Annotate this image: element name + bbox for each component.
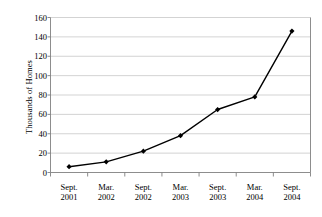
x-axis-tick-label: Sept.2001 <box>60 182 77 203</box>
x-axis-tick-label-year: 2004 <box>246 192 263 203</box>
x-axis-tick-label-year: 2002 <box>135 192 152 203</box>
x-axis-tick-label-year: 2002 <box>98 192 115 203</box>
x-axis-tick-label: Sept.2003 <box>209 182 226 203</box>
x-axis-tick-label: Sept.2004 <box>283 182 300 203</box>
line-chart: Thousands of Homes 020406080100120140160… <box>0 0 322 217</box>
x-axis-tick-label: Mar.2002 <box>98 182 115 203</box>
x-axis-tick-label-month: Mar. <box>98 182 115 193</box>
x-axis-tick-label-month: Mar. <box>172 182 189 193</box>
x-axis-tick-label-month: Sept. <box>60 182 77 193</box>
x-axis-tick-label: Mar.2004 <box>246 182 263 203</box>
x-axis-tick-label-year: 2001 <box>60 192 77 203</box>
x-axis-tick-label-year: 2003 <box>209 192 226 203</box>
x-axis-tick-label-month: Sept. <box>283 182 300 193</box>
x-axis-tick-label-month: Sept. <box>209 182 226 193</box>
x-axis-tick-label-year: 2003 <box>172 192 189 203</box>
x-axis-tick-label-year: 2004 <box>283 192 300 203</box>
x-axis-tick-labels: Sept.2001Mar.2002Sept.2002Mar.2003Sept.2… <box>0 0 322 217</box>
x-axis-tick-label: Mar.2003 <box>172 182 189 203</box>
x-axis-tick-label: Sept.2002 <box>135 182 152 203</box>
x-axis-tick-label-month: Mar. <box>246 182 263 193</box>
x-axis-tick-label-month: Sept. <box>135 182 152 193</box>
